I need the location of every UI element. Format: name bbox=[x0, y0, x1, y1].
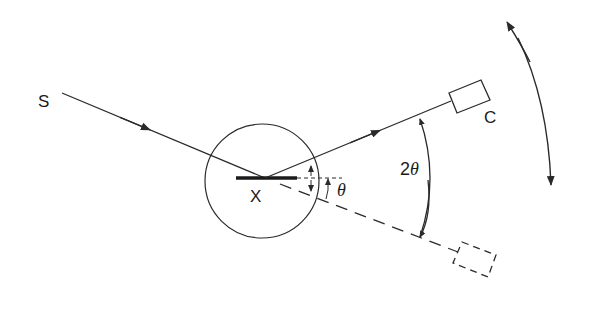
counter-label: C bbox=[484, 109, 496, 126]
theta-label: θ bbox=[337, 181, 346, 199]
diffraction-diagram bbox=[0, 0, 592, 311]
counter-alt-position bbox=[453, 242, 496, 277]
crystal-label: X bbox=[250, 188, 261, 205]
source-label: S bbox=[38, 93, 49, 110]
two-theta-prefix: 2 bbox=[400, 159, 410, 179]
undeviated-beam bbox=[280, 184, 458, 252]
incident-beam bbox=[62, 93, 265, 178]
reflected-beam bbox=[265, 101, 451, 178]
rotation-arrow-top bbox=[507, 22, 530, 62]
two-theta-label: 2θ bbox=[400, 160, 419, 178]
crystal-holder-circle bbox=[205, 124, 319, 238]
two-theta-arc bbox=[420, 119, 430, 237]
two-theta-symbol: θ bbox=[410, 159, 419, 179]
rotation-arrow bbox=[518, 38, 551, 185]
